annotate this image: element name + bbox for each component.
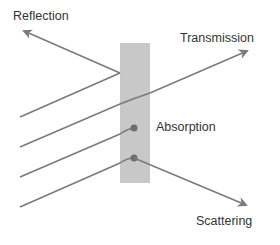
material-slab bbox=[120, 43, 150, 183]
absorption-point-icon bbox=[131, 125, 138, 132]
absorption-label: Absorption bbox=[156, 121, 216, 134]
reflection-label: Reflection bbox=[13, 10, 69, 23]
scattering-label: Scattering bbox=[196, 215, 252, 228]
reflection-ray bbox=[20, 31, 120, 117]
absorption-ray bbox=[20, 125, 138, 178]
transmission-label: Transmission bbox=[180, 32, 254, 45]
